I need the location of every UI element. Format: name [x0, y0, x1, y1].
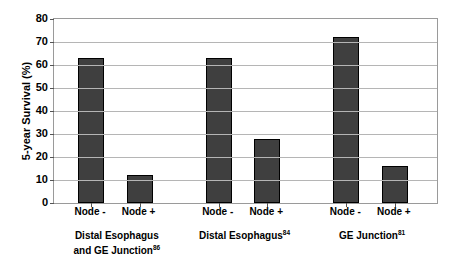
bar: [206, 58, 232, 203]
gridline: [54, 157, 437, 158]
bar: [333, 37, 359, 203]
x-tick-label: Node +: [377, 206, 411, 217]
gridline: [54, 42, 437, 43]
y-tickmark: [50, 19, 54, 20]
reference-superscript: 86: [153, 244, 160, 251]
group-label-line: Distal Esophagus: [73, 228, 160, 243]
y-tick-label: 50: [24, 82, 48, 93]
bar: [254, 139, 280, 203]
plot-area: [53, 18, 438, 204]
y-tickmark: [50, 65, 54, 66]
y-tick-label: 0: [24, 197, 48, 208]
x-tick-label: Node +: [249, 206, 283, 217]
y-tickmark: [50, 134, 54, 135]
y-axis-tick-labels: 80706050403020100: [24, 12, 48, 204]
x-tick-label: Node -: [74, 206, 105, 217]
y-tick-label: 70: [24, 36, 48, 47]
gridline: [54, 88, 437, 89]
y-tickmark: [50, 42, 54, 43]
group-label-text: and GE Junction: [73, 245, 152, 256]
y-tick-label: 10: [24, 174, 48, 185]
y-tickmark: [50, 203, 54, 204]
y-tick-label: 80: [24, 13, 48, 24]
x-tick-label: Node -: [202, 206, 233, 217]
y-tickmark: [50, 88, 54, 89]
x-axis-group-labels: Distal Esophagusand GE Junction86Distal …: [53, 228, 436, 270]
y-tick-label: 30: [24, 128, 48, 139]
gridline: [54, 111, 437, 112]
group-label-line: Distal Esophagus84: [199, 228, 290, 243]
gridline: [54, 134, 437, 135]
bar-chart-figure: 5-year Survival (%) 80706050403020100 No…: [0, 0, 451, 270]
gridline: [54, 180, 437, 181]
group-label: Distal Esophagus84: [199, 228, 290, 243]
reference-superscript: 81: [398, 229, 405, 236]
group-label-line: and GE Junction86: [73, 243, 160, 258]
group-label: Distal Esophagusand GE Junction86: [73, 228, 160, 258]
gridline: [54, 65, 437, 66]
x-tick-label: Node -: [330, 206, 361, 217]
bar: [382, 166, 408, 203]
y-tick-label: 60: [24, 59, 48, 70]
y-tick-label: 20: [24, 151, 48, 162]
group-label-line: GE Junction81: [339, 228, 405, 243]
y-tickmark: [50, 180, 54, 181]
x-axis-tick-labels: Node -Node +Node -Node +Node -Node +: [53, 206, 436, 226]
y-tickmark: [50, 111, 54, 112]
y-tick-label: 40: [24, 105, 48, 116]
reference-superscript: 84: [283, 229, 290, 236]
group-label: GE Junction81: [339, 228, 405, 243]
bar: [78, 58, 104, 203]
x-tick-label: Node +: [122, 206, 156, 217]
y-tickmark: [50, 157, 54, 158]
